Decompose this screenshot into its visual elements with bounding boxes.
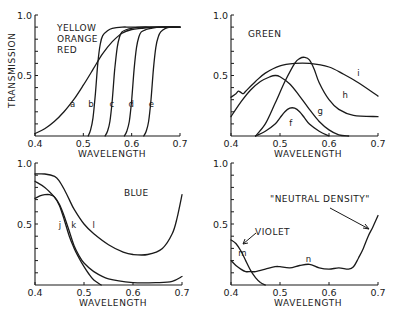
x-axis-label: WAVELENGTH [274,298,342,308]
curve-i [231,63,378,97]
curve-label-l: l [93,220,95,230]
curve-label-i: i [357,68,359,78]
y-tick-label: 0.5 [17,70,32,81]
curve-label-h: h [342,90,347,100]
annotation-arrow-violet [243,233,256,244]
x-tick-label: 0.7 [172,138,187,149]
x-tick-label: 0.7 [370,287,385,298]
y-tick-label: 1.0 [17,10,32,21]
curve-label-m: m [238,248,246,258]
x-axis-label: WAVELENGTH [78,149,146,159]
y-tick-label: 0.5 [213,70,228,81]
panel-blue: BLUE WAVELENGTH 0.51.00.40.50.60.7jkl [17,158,190,309]
curve-label-b: b [88,99,93,109]
x-tick-label: 0.5 [272,287,287,298]
x-tick-label: 0.7 [174,287,189,298]
x-tick-label: 0.5 [76,287,91,298]
x-tick-label: 0.4 [223,138,238,149]
curve-n [231,216,378,272]
curve-label-e: e [149,99,154,109]
curve-c [105,27,180,136]
x-tick-label: 0.7 [370,138,385,149]
curve-m [231,240,265,285]
x-tick-label: 0.4 [27,287,42,298]
x-tick-label: 0.4 [223,287,238,298]
x-tick-label: 0.5 [76,138,91,149]
y-tick-label: 1.0 [17,158,32,169]
curve-label-d: d [128,99,133,109]
y-tick-label: 1.0 [213,158,228,169]
filter-transmission-charts: YELLOW ORANGE RED TRANSMISSION WAVELENGT… [0,0,394,318]
curve-label-a: a [70,99,75,109]
x-axis-label: WAVELENGTH [79,298,147,308]
y-tick-label: 0.5 [213,219,228,230]
panel-title-line: BLUE [124,188,149,198]
curve-e [144,27,180,136]
annotation-neutral-density: "NEUTRAL DENSITY" [270,194,370,204]
curve-j [35,194,101,285]
curve-label-f: f [289,118,293,128]
panel-yellow-orange-red: YELLOW ORANGE RED TRANSMISSION WAVELENGT… [7,10,188,160]
y-tick-label: 1.0 [213,10,228,21]
curve-l [35,174,182,255]
x-tick-label: 0.6 [321,138,336,149]
x-tick-label: 0.6 [321,287,336,298]
y-tick-label: 0.5 [17,219,32,230]
panel-green: GREEN WAVELENGTH 0.51.00.40.50.60.7fghi [213,10,386,160]
x-tick-label: 0.6 [124,138,139,149]
panel-title-line: YELLOW [56,23,96,33]
panel-title-line: ORANGE [57,34,98,44]
x-axis-label: WAVELENGTH [274,149,342,159]
panel-title-line: GREEN [248,29,281,39]
curve-label-j: j [58,220,61,230]
annotation-violet: VIOLET [255,227,290,237]
curve-label-k: k [71,220,76,230]
x-tick-label: 0.5 [272,138,287,149]
panel-title-line: RED [57,45,77,55]
curve-label-n: n [306,254,311,264]
x-tick-label: 0.4 [27,138,42,149]
curve-b [88,27,180,136]
curve-label-g: g [317,106,322,116]
annotation-arrow-neutral-density [330,208,369,229]
y-axis-label: TRANSMISSION [7,32,17,109]
curve-k [35,181,182,283]
panel-violet-neutral: VIOLET "NEUTRAL DENSITY" WAVELENGTH 0.51… [213,158,386,309]
x-tick-label: 0.6 [125,287,140,298]
curve-label-c: c [110,99,115,109]
